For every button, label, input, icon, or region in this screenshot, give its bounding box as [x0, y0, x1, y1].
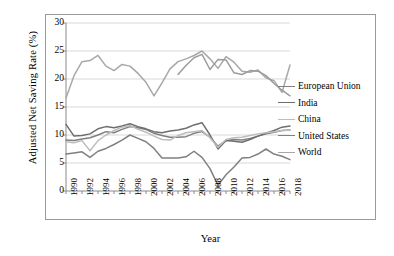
legend-label: World [298, 147, 322, 157]
x-tick-label: 2010 [230, 178, 239, 196]
legend-item-india[interactable]: India [278, 95, 374, 112]
legend-label: India [298, 98, 318, 108]
legend-swatch-icon [278, 102, 295, 103]
legend-item-world[interactable]: World [278, 144, 374, 161]
x-tick-label: 1996 [118, 178, 127, 196]
legend-swatch-icon [278, 152, 295, 153]
legend-item-china[interactable]: China [278, 111, 374, 128]
x-tick-label: 2004 [182, 178, 191, 196]
legend-swatch-icon [278, 119, 295, 120]
legend-label: European Union [298, 81, 361, 91]
x-tick-label: 1994 [102, 178, 111, 196]
x-tick-label: 2018 [294, 178, 303, 196]
x-tick-label: 1998 [134, 178, 143, 196]
x-tick-label: 2016 [278, 178, 287, 196]
legend-item-united-states[interactable]: United States [278, 128, 374, 145]
legend-label: United States [298, 131, 349, 141]
x-tick-label: 2012 [246, 178, 255, 196]
x-tick-label: 2008 [214, 178, 223, 196]
x-tick-label: 2006 [198, 178, 207, 196]
chart-canvas: 051015202530 199019921994199619982000200… [0, 0, 394, 256]
x-tick-label: 1990 [70, 178, 79, 196]
legend-item-european-union[interactable]: European Union [278, 78, 374, 95]
y-axis-title: Adjusted Net Saving Rate (%) [27, 3, 38, 193]
x-axis-title: Year [45, 233, 376, 244]
legend-swatch-icon [278, 86, 295, 87]
legend-swatch-icon [278, 135, 295, 136]
x-tick-label: 2014 [262, 178, 271, 196]
x-tick-label: 2002 [166, 178, 175, 196]
legend: European UnionIndiaChinaUnited StatesWor… [278, 78, 374, 161]
x-tick-label: 1992 [86, 178, 95, 196]
legend-label: China [298, 114, 321, 124]
x-tick-label: 2000 [150, 178, 159, 196]
